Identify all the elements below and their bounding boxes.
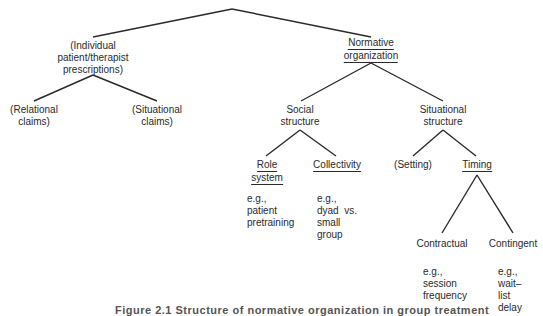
node-label: (Individual patient/therapist prescripti…	[57, 40, 128, 76]
figure-caption: Figure 2.1 Structure of normative organi…	[115, 304, 489, 316]
node-relational-claims: (Relational claims)	[10, 104, 58, 128]
label-line: Timing	[462, 159, 492, 172]
label-line: Situational	[420, 104, 467, 116]
node-label: (Setting)	[394, 159, 432, 171]
node-setting: (Setting)	[394, 159, 432, 171]
node-label: Collectivity	[313, 159, 361, 172]
label-line: (Individual	[57, 40, 128, 52]
label-line: (Relational	[10, 104, 58, 116]
label-line: Social	[281, 104, 320, 116]
node-label: Contingent	[489, 238, 537, 250]
node-label: (Situational claims)	[132, 104, 182, 128]
node-role-system: Role system	[251, 159, 283, 185]
label-line: (Setting)	[394, 159, 432, 171]
node-label: (Relational claims)	[10, 104, 58, 128]
label-line: structure	[281, 116, 320, 128]
label-line: Role	[257, 159, 278, 172]
node-label: Timing	[462, 159, 492, 172]
label-line: claims)	[10, 116, 58, 128]
node-contingent: Contingent	[489, 238, 537, 250]
node-label: Social structure	[281, 104, 320, 128]
example-collectivity: e.g., dyad vs. small group	[317, 193, 357, 241]
node-label: Role system	[251, 159, 283, 185]
node-normative-organization: Normative organization	[344, 37, 398, 64]
label-line: system	[251, 172, 283, 185]
node-timing: Timing	[462, 159, 492, 172]
label-line: Contractual	[416, 238, 467, 250]
label-line: Normative	[348, 37, 394, 50]
label-line: organization	[344, 50, 398, 63]
node-situational-claims: (Situational claims)	[132, 104, 182, 128]
node-individual-prescriptions: (Individual patient/therapist prescripti…	[57, 40, 128, 76]
label-line: patient/therapist	[57, 52, 128, 64]
node-collectivity: Collectivity	[313, 159, 361, 172]
label-line: Contingent	[489, 238, 537, 250]
node-social-structure: Social structure	[281, 104, 320, 128]
example-role-system: e.g., patient pretraining	[247, 193, 294, 229]
node-label: Contractual	[416, 238, 467, 250]
label-line: Collectivity	[313, 159, 361, 172]
node-label: Normative organization	[344, 37, 398, 64]
label-line: (Situational	[132, 104, 182, 116]
node-situational-structure: Situational structure	[420, 104, 467, 128]
label-line: prescriptions)	[57, 64, 128, 76]
example-contingent: e.g., wait– list delay	[498, 266, 522, 314]
label-line: claims)	[132, 116, 182, 128]
label-line: structure	[420, 116, 467, 128]
node-label: Situational structure	[420, 104, 467, 128]
node-contractual: Contractual	[416, 238, 467, 250]
example-contractual: e.g., session frequency	[423, 266, 467, 302]
